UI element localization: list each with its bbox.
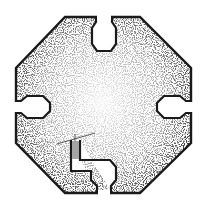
east-niche	[157, 96, 190, 118]
octagonal-floor-plan	[0, 0, 205, 212]
west-niche	[17, 96, 50, 118]
staircase	[72, 140, 79, 159]
north-niche	[92, 18, 116, 51]
